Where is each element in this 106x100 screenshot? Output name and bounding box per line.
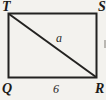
vertex-label-Q: Q <box>2 82 12 96</box>
diagonal-label-a: a <box>56 32 62 44</box>
geometry-figure: T S Q R a 6 <box>0 0 106 100</box>
diagonal-line-TR <box>9 14 96 77</box>
vertex-label-S: S <box>98 0 106 14</box>
clipped-right-edge-mark <box>104 40 106 48</box>
base-label-6: 6 <box>53 83 59 95</box>
vertex-label-R: R <box>95 82 104 96</box>
vertex-label-T: T <box>2 0 11 14</box>
